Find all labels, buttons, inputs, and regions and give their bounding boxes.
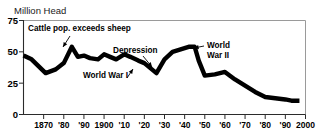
x-tick-label: '30: [159, 120, 171, 130]
annotation-label-cattle-exceeds-sheep: Cattle pop. exceeds sheep: [28, 24, 131, 33]
chart-container: Million Head 0255075 1870'80'901900'10'2…: [0, 0, 322, 136]
x-tick-label: 1870: [34, 120, 53, 130]
annotation-label-world-war-2-line-2: War II: [207, 51, 229, 60]
y-tick-label: 0: [13, 109, 18, 120]
x-tick-label: '10: [118, 120, 130, 130]
x-tick-label: '70: [239, 120, 251, 130]
chart-axis-title: Million Head: [14, 5, 66, 16]
y-tick-label: 75: [7, 15, 18, 26]
x-tick-label: '90: [280, 120, 292, 130]
annotation-label-world-war-2-line-1: World: [207, 41, 230, 50]
x-tick-label: '40: [179, 120, 191, 130]
y-tick-label: 50: [7, 46, 18, 57]
x-tick-label: '50: [199, 120, 211, 130]
x-tick-label: 2000: [296, 120, 315, 130]
x-tick-label: '80: [58, 120, 70, 130]
x-tick-label: '60: [219, 120, 231, 130]
sheep-population-line-chart: Million Head 0255075 1870'80'901900'10'2…: [0, 0, 322, 136]
x-tick-label: '80: [259, 120, 271, 130]
x-tick-label: '20: [139, 120, 151, 130]
x-tick-label: 1900: [95, 120, 114, 130]
annotation-label-depression: Depression: [113, 46, 158, 55]
x-tick-label: '90: [78, 120, 90, 130]
y-tick-label: 25: [7, 78, 18, 89]
annotation-label-world-war-1: World War I: [83, 71, 128, 80]
